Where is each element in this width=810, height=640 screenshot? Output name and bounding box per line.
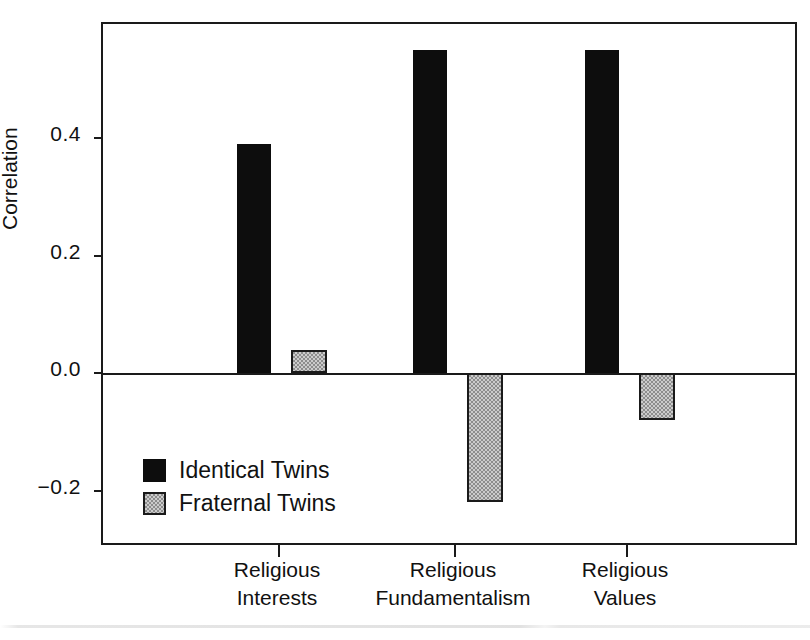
chart-legend: Identical Twins Fraternal Twins xyxy=(143,454,336,520)
bar-identical-twins xyxy=(585,50,619,373)
y-axis-tick xyxy=(94,490,103,492)
zero-baseline xyxy=(103,373,795,375)
bar-fraternal-twins xyxy=(639,373,675,420)
y-axis-tick xyxy=(94,372,103,374)
bar-identical-twins xyxy=(237,144,271,373)
legend-label-fraternal-twins: Fraternal Twins xyxy=(179,490,336,517)
bar-fraternal-twins xyxy=(291,350,327,374)
bar-chart-figure: Correlation −0.20.00.20.4 Identical Twin… xyxy=(0,0,810,640)
scan-artifact-strip xyxy=(0,625,810,628)
bar-identical-twins xyxy=(413,50,447,373)
x-axis-tick-label-line: Values xyxy=(510,584,740,612)
y-axis-title: Correlation xyxy=(0,127,22,230)
y-axis-tick-label: 0.4 xyxy=(50,122,81,146)
y-axis-tick-label: −0.2 xyxy=(38,475,81,499)
plot-area: Identical Twins Fraternal Twins xyxy=(101,22,797,545)
gray-checker-swatch-icon xyxy=(143,492,166,515)
x-axis-tick-label-line: Religious xyxy=(510,556,740,584)
bar-fraternal-twins xyxy=(467,373,503,502)
x-axis-tick-label: ReligiousValues xyxy=(510,556,740,612)
legend-item-fraternal-twins: Fraternal Twins xyxy=(143,487,336,520)
y-axis-tick xyxy=(94,137,103,139)
legend-label-identical-twins: Identical Twins xyxy=(179,457,329,484)
y-axis-tick-label: 0.0 xyxy=(50,357,81,381)
solid-black-swatch-icon xyxy=(143,459,166,482)
legend-item-identical-twins: Identical Twins xyxy=(143,454,336,487)
y-axis-tick-label: 0.2 xyxy=(50,240,81,264)
y-axis-tick xyxy=(94,255,103,257)
